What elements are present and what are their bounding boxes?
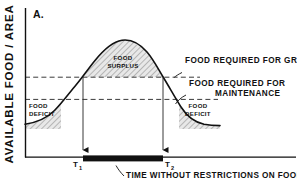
figure-container: AVAILABLE FOOD / AREA A. FOOD SURPLUS FO… [0, 0, 297, 180]
t2-tick-base: T [165, 160, 170, 169]
maintenance-reference-label-line1: FOOD REQUIRED FOR [189, 79, 285, 88]
maintenance-reference-label-line2: MAINTENANCE [215, 89, 281, 98]
panel-label: A. [33, 8, 44, 20]
t1-tick-label: T 1 [73, 160, 82, 171]
y-axis-title: AVAILABLE FOOD / AREA [3, 4, 15, 163]
t1-tick-subscript: 1 [79, 165, 82, 171]
food-deficit-left-label-line2: DEFICIT [29, 110, 55, 117]
food-deficit-left-label-line1: FOOD [29, 102, 48, 109]
time-bar-label: TIME WITHOUT RESTRICTIONS ON FOOD INTAKE [126, 171, 297, 180]
t2-tick-label: T 2 [165, 160, 174, 171]
food-surplus-label-line2: SURPLUS [107, 62, 138, 69]
t1-tick-base: T [73, 160, 78, 169]
growth-callout-leader [174, 73, 182, 78]
time-span-bar [83, 155, 163, 161]
food-surplus-label-line1: FOOD [114, 54, 133, 61]
growth-reference-label: FOOD REQUIRED FOR GROWTH [185, 56, 297, 65]
food-deficit-right-label-line2: DEFICIT [185, 110, 211, 117]
available-food-per-area-chart: AVAILABLE FOOD / AREA A. FOOD SURPLUS FO… [0, 0, 297, 180]
time-bar-callout-leader [116, 166, 124, 177]
food-deficit-right-label-line1: FOOD [189, 102, 208, 109]
